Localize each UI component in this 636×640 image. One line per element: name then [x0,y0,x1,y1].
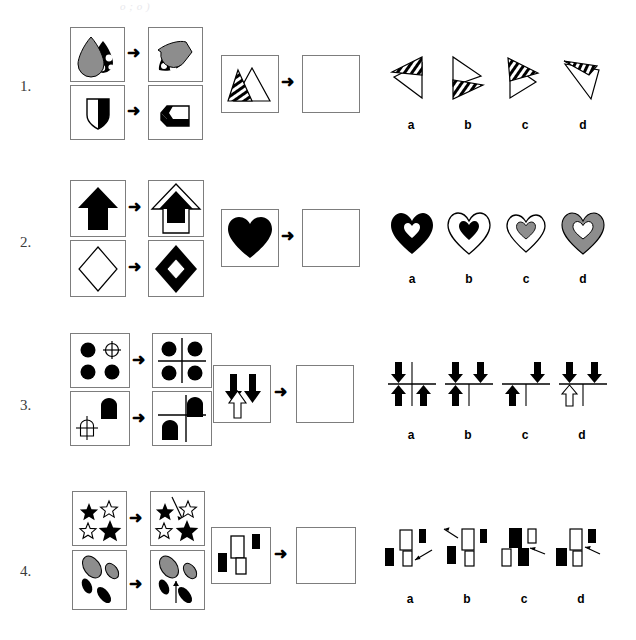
row3-option-c[interactable] [500,358,552,410]
row4-option-c[interactable] [497,524,555,576]
row3-answer-box[interactable] [296,365,354,423]
row2-arrow-bottom: ➜ [128,259,141,275]
row3-option-b[interactable] [443,358,495,410]
row1-analogy-source-top [70,27,125,82]
row3-option-c-label: c [515,428,535,442]
row3-option-a-label: a [401,428,421,442]
row2-question-arrow: ➜ [281,228,294,244]
row2-option-b[interactable] [445,208,493,258]
row4-option-c-label: c [514,592,534,606]
row2-analogy-result-top [148,180,204,237]
row2-analogy-source-top [70,180,126,237]
row3-arrow-bottom: ➜ [132,410,145,426]
row1-arrow-top: ➜ [127,45,140,61]
row4-analogy-result-bottom [150,550,205,610]
row1-option-b[interactable] [445,52,493,102]
row3-question-arrow: ➜ [274,384,287,400]
row3-option-b-label: b [458,428,478,442]
row4-arrow-top: ➜ [129,510,142,526]
row2-option-d-label: d [573,272,593,286]
row4-arrow-bottom: ➜ [129,576,142,592]
row3-option-d[interactable] [557,358,609,410]
row4-option-b-label: b [457,592,477,606]
row1-question-prompt [221,55,279,113]
row-number-2: 2. [20,234,31,251]
row4-answer-box[interactable] [296,527,356,584]
row2-option-a-label: a [402,272,422,286]
row4-option-d[interactable] [554,524,612,576]
row3-analogy-source-top [70,333,130,388]
row2-answer-box[interactable] [302,209,360,267]
row1-analogy-result-top [148,27,203,82]
row-number-3: 3. [20,397,31,414]
row1-option-c[interactable] [502,52,550,102]
row1-option-a-label: a [401,118,421,132]
row2-question-prompt [221,209,279,267]
row2-option-a[interactable] [388,208,436,258]
row1-option-a[interactable] [388,52,436,102]
page-header-faint-text: o ; o ) [120,0,540,14]
row1-option-b-label: b [458,118,478,132]
row3-option-a[interactable] [386,358,438,410]
row2-analogy-source-bottom [70,240,126,297]
row1-arrow-bottom: ➜ [127,103,140,119]
row1-question-arrow: ➜ [281,74,294,90]
row4-question-prompt [211,527,271,584]
row2-analogy-result-bottom [148,240,204,297]
worksheet-page: o ; o ) 1. ➜ [0,0,636,640]
row-number-1: 1. [20,78,31,95]
row4-analogy-source-bottom [72,550,127,610]
row3-analogy-result-top [152,333,212,388]
row4-option-d-label: d [571,592,591,606]
row4-option-a-label: a [400,592,420,606]
row1-analogy-result-bottom [148,85,203,140]
row4-analogy-result-top [150,491,205,546]
row2-option-c[interactable] [502,208,550,258]
row1-option-d-label: d [573,118,593,132]
row1-option-d[interactable] [559,52,611,102]
row3-question-prompt [213,365,271,423]
row2-arrow-top: ➜ [128,199,141,215]
row1-option-c-label: c [515,118,535,132]
row4-option-a[interactable] [382,524,440,576]
row3-arrow-top: ➜ [132,352,145,368]
row2-option-b-label: b [459,272,479,286]
row3-option-d-label: d [572,428,592,442]
row4-analogy-source-top [72,491,127,546]
row4-question-arrow: ➜ [274,546,287,562]
row3-analogy-result-bottom [152,391,212,446]
row2-option-c-label: c [516,272,536,286]
row1-answer-box[interactable] [302,55,360,113]
row2-option-d[interactable] [559,208,607,258]
row1-analogy-source-bottom [70,85,125,140]
row-number-4: 4. [20,563,31,580]
row4-option-b[interactable] [440,524,498,576]
row3-analogy-source-bottom [70,391,130,446]
